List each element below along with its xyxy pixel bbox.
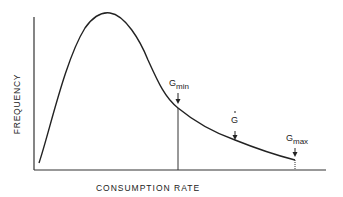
gbar-label: G	[231, 115, 238, 125]
gmin-subscript: min	[176, 82, 189, 91]
chart: FREQUENCY CONSUMPTION RATE G min G G max	[0, 0, 343, 197]
distribution-curve	[39, 13, 295, 163]
y-axis-label: FREQUENCY	[12, 74, 22, 135]
gmin-label: G	[169, 78, 176, 88]
x-axis-label: CONSUMPTION RATE	[96, 183, 200, 193]
gmax-label: G	[286, 133, 293, 143]
gmax-subscript: max	[293, 137, 308, 146]
